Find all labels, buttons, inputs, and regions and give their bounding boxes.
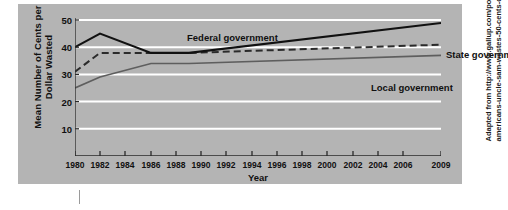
plot-area: Federal government State government Loca…: [75, 18, 441, 156]
x-tick-1986: 1986: [142, 160, 161, 170]
source-credit-line-2: americans-uncle-sam-wastes-50-cents-doll…: [493, 0, 503, 142]
y-tick-40: 40: [52, 42, 72, 53]
annotation-federal-government: Federal government: [187, 32, 278, 43]
x-tick-2006: 2006: [394, 160, 413, 170]
y-tick-10: 10: [52, 123, 72, 134]
x-tick-1982: 1982: [91, 160, 110, 170]
x-tick-1988: 1988: [167, 160, 186, 170]
source-credit-line-1: Adapted from http://www.gallup.com/poll/…: [484, 0, 494, 142]
series-state-government: [75, 45, 441, 72]
x-tick-2002: 2002: [344, 160, 363, 170]
page-margin-tick: [79, 190, 80, 204]
x-tick-1998: 1998: [293, 160, 312, 170]
x-tick-1990: 1990: [192, 160, 211, 170]
x-tick-1994: 1994: [243, 160, 262, 170]
x-tick-1980: 1980: [66, 160, 85, 170]
chart-figure: Mean Number of Cents per Dollar Wasted 5…: [0, 0, 508, 210]
y-tick-20: 20: [52, 96, 72, 107]
y-tick-50: 50: [52, 15, 72, 26]
x-tick-1992: 1992: [217, 160, 236, 170]
x-tick-2009: 2009: [432, 160, 451, 170]
x-tick-1984: 1984: [116, 160, 135, 170]
x-axis-title: Year: [75, 172, 441, 183]
x-tick-2000: 2000: [318, 160, 337, 170]
x-tick-2004: 2004: [369, 160, 388, 170]
y-tick-30: 30: [52, 69, 72, 80]
x-tick-1996: 1996: [268, 160, 287, 170]
source-credit: Adapted from http://www.gallup.com/poll/…: [484, 0, 503, 142]
y-axis-tick-labels: 50 40 30 20 10: [48, 18, 72, 156]
annotation-local-government: Local government: [371, 82, 453, 93]
x-axis-ticks: [75, 151, 441, 156]
